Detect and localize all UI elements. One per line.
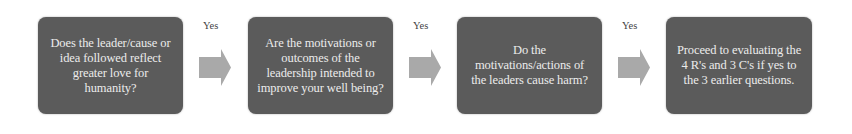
flow-step-4-text: Proceed to evaluating the 4 R's and 3 C'…	[674, 43, 804, 88]
flow-step-3-text: Do the motivations/actions of the leader…	[467, 43, 592, 88]
right-arrow-icon	[199, 49, 231, 86]
flow-step-4: Proceed to evaluating the 4 R's and 3 C'…	[666, 17, 812, 114]
flow-step-1: Does the leader/cause or idea followed r…	[38, 17, 183, 114]
flow-step-1-text: Does the leader/cause or idea followed r…	[46, 36, 175, 96]
right-arrow-icon	[618, 49, 650, 86]
right-arrow-icon	[409, 49, 441, 86]
flow-step-2: Are the motivations or outcomes of the l…	[248, 17, 393, 114]
flow-step-2-text: Are the motivations or outcomes of the l…	[256, 36, 385, 96]
connector-2-label: Yes	[413, 20, 428, 31]
connector-3-label: Yes	[622, 20, 637, 31]
connector-1-label: Yes	[203, 20, 218, 31]
flow-step-3: Do the motivations/actions of the leader…	[457, 17, 602, 114]
